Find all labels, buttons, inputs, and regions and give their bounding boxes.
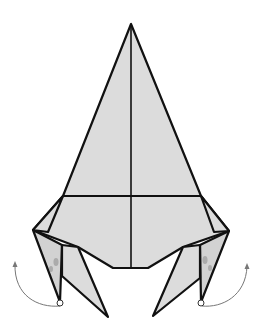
left-shading <box>54 258 59 266</box>
left-inner-flap <box>33 230 62 302</box>
origami-diagram <box>0 0 262 334</box>
right-shading <box>203 256 208 264</box>
left-arrowhead-icon <box>13 261 18 267</box>
left-shading-2 <box>49 266 53 272</box>
main-kite-body <box>63 24 201 196</box>
left-pivot-point <box>57 300 63 306</box>
right-shading-2 <box>208 265 212 271</box>
right-arrowhead-icon <box>245 263 250 269</box>
right-pivot-point <box>198 300 204 306</box>
right-inner-flap <box>200 231 229 302</box>
